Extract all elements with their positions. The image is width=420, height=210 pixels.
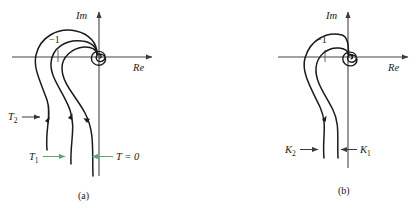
panel-b-caption: (b) — [338, 185, 350, 197]
panel-b-locus-K1 — [316, 48, 348, 158]
panel-b-spiral — [343, 52, 357, 66]
panel-b-locus-K2 — [304, 34, 348, 158]
panel-a-label-T2-sub: 2 — [14, 116, 18, 125]
panel-b-label-K2-sub: 2 — [292, 149, 296, 158]
svg-text:T1: T1 — [29, 151, 39, 165]
panel-a-critical-point-label: −1 — [49, 34, 60, 45]
svg-text:T2: T2 — [8, 111, 18, 125]
panel-b-critical-point-label: −1 — [316, 34, 327, 45]
panel-a: Im Re −1 T2 T1 T = 0 (a) — [8, 10, 152, 202]
panel-a-label-T2: T2 — [8, 111, 40, 125]
panel-a-direction-arrow-2 — [68, 113, 73, 120]
panel-a-locus-T0 — [62, 47, 97, 176]
panel-b-label-K1: K1 — [341, 144, 371, 158]
panel-a-direction-arrow-1 — [45, 117, 50, 124]
svg-text:K1: K1 — [359, 144, 371, 158]
panel-a-label-T1: T1 — [29, 151, 65, 165]
panel-a-label-T0-text: T = 0 — [116, 151, 140, 162]
figure-canvas: Im Re −1 T2 T1 T = 0 (a) — [0, 0, 420, 210]
panel-b: Im Re −1 K2 K1 (b) — [278, 10, 408, 197]
panel-a-label-T1-sub: 1 — [35, 156, 39, 165]
svg-text:K2: K2 — [284, 144, 296, 158]
panel-a-locus-T2 — [35, 30, 97, 150]
panel-b-label-K1-sub: 1 — [367, 149, 371, 158]
panel-a-caption: (a) — [78, 190, 89, 202]
figure-nyquist-plots: Im Re −1 T2 T1 T = 0 (a) — [0, 0, 420, 210]
panel-a-imag-axis-label: Im — [75, 10, 87, 21]
panel-b-imag-axis-label: Im — [325, 10, 337, 21]
panel-b-real-axis-label: Re — [387, 62, 399, 73]
panel-b-label-K2: K2 — [284, 144, 318, 158]
panel-a-real-axis-label: Re — [132, 62, 144, 73]
